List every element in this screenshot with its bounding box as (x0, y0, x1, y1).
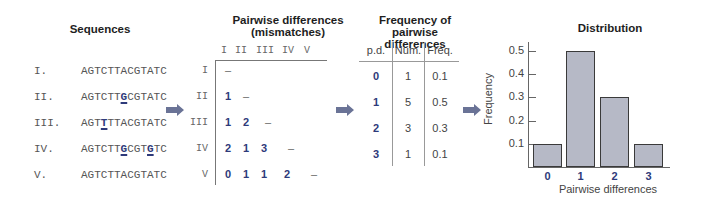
y-tick (529, 97, 536, 98)
matrix-value: 1 (222, 90, 234, 102)
y-tick (529, 51, 536, 52)
matrix-value: 2 (222, 142, 234, 154)
matrix-diagonal-dash: – (240, 90, 252, 102)
matrix-top-rule (215, 60, 327, 61)
matrix-col-label: IV (282, 45, 294, 56)
matrix-row-label: II (178, 91, 208, 102)
matrix-value: 3 (258, 142, 270, 154)
sequence-bases: AGTCTT (81, 91, 121, 103)
bar-2 (600, 97, 629, 167)
freq-table-cell-num: 3 (390, 122, 426, 134)
sequences-title: Sequences (50, 23, 150, 35)
freq-table-header: p.d. (358, 44, 394, 56)
x-axis-line (528, 167, 670, 168)
sequence-label: I. (34, 64, 81, 78)
arrow-right-icon (166, 104, 184, 116)
x-tick-label: 1 (571, 170, 591, 182)
freq-table-cell-freq: 0.3 (422, 122, 458, 134)
sequence-label: IV. (34, 142, 81, 156)
freq-table-cell-pd: 0 (358, 70, 394, 82)
freq-table-header: Freq. (422, 44, 458, 56)
freq-table-cell-num: 1 (390, 148, 426, 160)
freq-table-cell-freq: 0.1 (422, 70, 458, 82)
freq-table-cell-freq: 0.5 (422, 96, 458, 108)
sequence-row: V.AGTCTTACGTATC (34, 168, 167, 182)
sequence-row: I.AGTCTTACGTATC (34, 64, 167, 78)
x-tick-label: 2 (605, 170, 625, 182)
freq-table-header: Num. (390, 44, 426, 56)
chart-title: Distribution (560, 22, 660, 34)
frequency-title-line1: Frequency of pairwise (355, 14, 475, 38)
matrix-col-label: II (235, 45, 247, 56)
matrix-value: 2 (240, 116, 252, 128)
y-tick-label: 0.1 (500, 137, 524, 149)
matrix-value: 2 (281, 168, 293, 180)
freq-table-cell-num: 5 (390, 96, 426, 108)
matrix-diagonal-dash: – (285, 142, 297, 154)
matrix-value: 1 (240, 168, 252, 180)
sequence-bases: CGT (127, 143, 147, 155)
x-tick-label: 0 (538, 170, 558, 182)
freq-table-cell-pd: 1 (358, 96, 394, 108)
y-tick-label: 0.3 (500, 90, 524, 102)
y-tick-label: 0.2 (500, 114, 524, 126)
matrix-row-label: III (178, 117, 208, 128)
sequence-bases: AGT (81, 117, 101, 129)
freq-header-rule (359, 61, 459, 62)
y-tick (529, 121, 536, 122)
matrix-diagonal-dash: – (308, 168, 320, 180)
freq-table-cell-num: 1 (390, 70, 426, 82)
matrix-col-label: III (256, 45, 274, 56)
sequence-row: III.AGTTTTACGTATC (34, 116, 167, 130)
pairwise-differences-figure: Sequences I.AGTCTTACGTATCII.AGTCTTGCGTAT… (0, 0, 701, 205)
arrow-right-icon (463, 104, 481, 116)
y-tick-label: 0.4 (500, 67, 524, 79)
matrix-value: 0 (222, 168, 234, 180)
matrix-left-rule (215, 60, 216, 185)
sequence-bases: TC (154, 143, 167, 155)
sequence-bases: AGTCTT (81, 143, 121, 155)
matrix-diagonal-dash: – (262, 116, 274, 128)
matrix-row-label: I (178, 65, 208, 76)
freq-table-cell-freq: 0.1 (422, 148, 458, 160)
sequence-bases: AGTCTTACGTATC (81, 169, 167, 181)
matrix-diagonal-dash: – (222, 64, 234, 76)
y-tick (529, 74, 536, 75)
sequence-row: IV.AGTCTTGCGTGTC (34, 142, 167, 156)
bar-0 (533, 144, 562, 167)
matrix-col-label: I (221, 45, 227, 56)
freq-table-cell-pd: 3 (358, 148, 394, 160)
matrix-value: 1 (222, 116, 234, 128)
bar-3 (634, 144, 663, 167)
pairwise-title-line1: Pairwise differences (228, 14, 348, 26)
sequence-label: III. (34, 116, 81, 130)
bar-1 (566, 51, 595, 167)
sequence-bases: AGTCTTACGTATC (81, 65, 167, 77)
sequence-bases: CGTATC (127, 91, 167, 103)
matrix-row-label: IV (178, 143, 208, 154)
y-axis-line (528, 42, 529, 168)
freq-table-cell-pd: 2 (358, 122, 394, 134)
x-tick-label: 3 (639, 170, 659, 182)
y-tick-label: 0.5 (500, 44, 524, 56)
pairwise-title-line2: (mismatches) (228, 26, 348, 38)
matrix-col-label: V (304, 45, 310, 56)
y-axis-label: Frequency (482, 69, 494, 129)
sequence-label: V. (34, 168, 81, 182)
sequence-label: II. (34, 90, 81, 104)
matrix-row-label: V (178, 169, 208, 180)
arrow-right-icon (336, 104, 354, 116)
x-axis-label: Pairwise differences (548, 183, 668, 195)
sequence-bases: TTACGTATC (107, 117, 166, 129)
mutation-base: G (147, 143, 154, 155)
matrix-value: 1 (258, 168, 270, 180)
pairwise-title: Pairwise differences (mismatches) (228, 14, 348, 38)
sequence-row: II.AGTCTTGCGTATC (34, 90, 167, 104)
matrix-value: 1 (240, 142, 252, 154)
